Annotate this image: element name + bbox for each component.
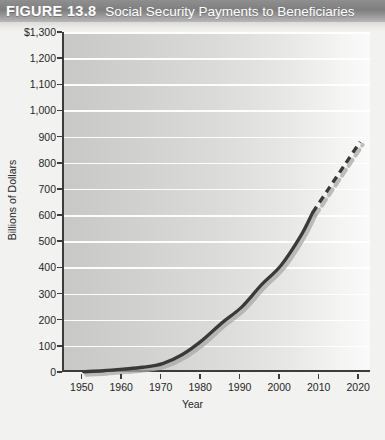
y-axis-tick-label: 0	[4, 366, 56, 378]
x-axis-title: Year	[0, 398, 385, 410]
y-axis-tick-label: 1,000	[4, 104, 56, 116]
series-line-projected	[313, 142, 360, 213]
y-axis-tick-mark	[57, 267, 62, 269]
y-axis-tick-label: 1,100	[4, 78, 56, 90]
series-shadow-projected	[315, 145, 362, 216]
figure-title: Social Security Payments to Beneficiarie…	[105, 4, 354, 19]
figure-container: FIGURE 13.8 Social Security Payments to …	[0, 0, 385, 440]
y-axis-tick-mark	[57, 162, 62, 164]
x-axis-tick-mark	[120, 374, 122, 379]
y-axis-tick-mark	[57, 31, 62, 33]
y-axis-title: Billions of Dollars	[6, 130, 18, 270]
y-axis-tick-label: 800	[4, 157, 56, 169]
y-axis-tick-mark	[57, 136, 62, 138]
x-axis-tick-label: 1950	[60, 381, 104, 393]
x-axis-tick-mark	[81, 374, 83, 379]
x-axis-tick-label: 2000	[257, 381, 301, 393]
y-axis-tick-label: 500	[4, 235, 56, 247]
x-axis-tick-mark	[239, 374, 241, 379]
series-shadow-actual	[86, 215, 315, 374]
x-axis-tick-label: 1960	[99, 381, 143, 393]
x-axis-tick-mark	[160, 374, 162, 379]
y-axis-tick-label: 600	[4, 209, 56, 221]
x-axis-tick-label: 2020	[336, 381, 380, 393]
y-axis-tick-mark	[57, 319, 62, 321]
plot-region	[62, 32, 370, 372]
x-axis-tick-mark	[357, 374, 359, 379]
y-axis-tick-label: $1,300	[4, 26, 56, 38]
y-axis-tick-mark	[57, 110, 62, 112]
y-axis-tick-mark	[57, 188, 62, 190]
x-axis-tick-label: 1970	[139, 381, 183, 393]
y-axis-tick-label: 900	[4, 131, 56, 143]
y-axis-tick-mark	[57, 371, 62, 373]
y-axis-tick-mark	[57, 214, 62, 216]
x-axis-tick-mark	[278, 374, 280, 379]
figure-number: FIGURE 13.8	[6, 3, 96, 19]
y-axis-tick-mark	[57, 84, 62, 86]
y-axis-tick-label: 300	[4, 288, 56, 300]
y-axis-tick-label: 100	[4, 340, 56, 352]
x-axis-tick-mark	[318, 374, 320, 379]
x-axis-tick-label: 1980	[178, 381, 222, 393]
y-axis-tick-label: 400	[4, 261, 56, 273]
x-axis-tick-label: 1990	[218, 381, 262, 393]
y-axis-tick-mark	[57, 240, 62, 242]
y-axis-tick-label: 1,200	[4, 52, 56, 64]
y-axis-tick-label: 200	[4, 314, 56, 326]
data-series-group	[64, 32, 372, 372]
y-axis-tick-mark	[57, 293, 62, 295]
chart-area: Billions of Dollars $1,3001,2001,1001,00…	[0, 22, 385, 440]
y-axis-tick-label: 700	[4, 183, 56, 195]
y-axis-tick-mark	[57, 345, 62, 347]
y-axis-tick-mark	[57, 57, 62, 59]
x-axis-tick-mark	[199, 374, 201, 379]
x-axis-tick-label: 2010	[297, 381, 341, 393]
figure-header: FIGURE 13.8 Social Security Payments to …	[0, 0, 385, 22]
